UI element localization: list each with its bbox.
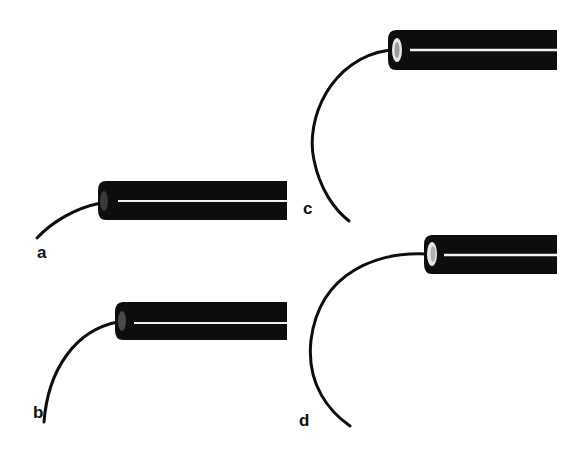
panel-d-tube — [310, 235, 557, 426]
panel-a-tube — [37, 181, 287, 238]
panel-a-label: a — [37, 244, 46, 261]
panel-b-tube — [44, 302, 287, 422]
panel-d-curve — [310, 254, 426, 426]
panel-c-label: c — [303, 200, 312, 217]
diagram-canvas — [0, 0, 588, 457]
panel-d-label: d — [299, 412, 309, 429]
panel-c-tube — [312, 30, 557, 221]
panel-b-curve — [44, 322, 118, 422]
panel-a-curve — [37, 203, 101, 238]
panel-c-curve — [312, 50, 390, 221]
panel-b-label: b — [33, 404, 43, 421]
